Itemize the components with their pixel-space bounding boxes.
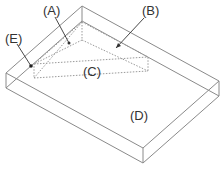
box-inner-rim (6, 6, 219, 96)
label-A: (A) (43, 3, 60, 18)
label-E: (E) (5, 31, 22, 46)
leader-A-dot-icon (68, 42, 71, 45)
leader-A (55, 17, 71, 45)
label-C: (C) (83, 64, 101, 79)
box-sides (6, 73, 219, 163)
leader-E-dot-icon (29, 64, 33, 68)
label-B: (B) (142, 3, 159, 18)
label-D: (D) (130, 108, 148, 123)
diagram-canvas: (A) (B) (C) (D) (E) (0, 0, 224, 173)
leader-E (17, 44, 33, 68)
box-top-face (6, 6, 219, 148)
leader-B (116, 18, 144, 48)
